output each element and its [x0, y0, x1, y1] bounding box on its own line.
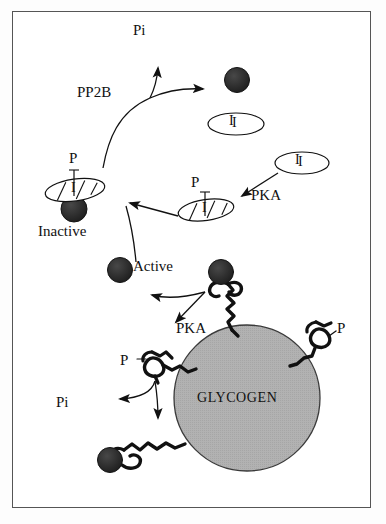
diagram-canvas: Pi PP2B P Inactive P PKA I I Active PKA … — [0, 0, 386, 524]
label-p-branch-left: P — [120, 352, 128, 369]
label-pp2b: PP2B — [77, 84, 111, 101]
arrow-pka-release-active — [152, 292, 205, 322]
diagram-vector-layer — [0, 0, 386, 524]
glycogen-branch-bottom — [98, 443, 186, 473]
inhibitor-right-text: I — [298, 154, 303, 170]
arrow-pp2b-dephosphorylation — [103, 68, 203, 168]
label-p-inactive: P — [69, 150, 77, 167]
label-p-inhibitor: P — [191, 174, 199, 191]
active-sphere — [108, 258, 133, 283]
inactive-complex — [44, 170, 106, 222]
free-sphere-top — [225, 68, 250, 93]
label-p-branch-right: P — [337, 320, 345, 337]
label-pka-bottom: PKA — [176, 320, 206, 337]
label-pi-bottom: Pi — [56, 394, 69, 411]
glycogen-branch-top — [209, 260, 242, 337]
label-inactive: Inactive — [38, 223, 86, 240]
arrow-dephosphorylation-branch — [120, 381, 158, 418]
label-active: Active — [133, 258, 173, 275]
inhibitor-upper-text: I — [232, 115, 237, 131]
label-pka-top: PKA — [251, 187, 281, 204]
phospho-inhibitor-text: I — [202, 200, 207, 216]
arrow-inhibitor-binding — [126, 203, 178, 262]
label-glycogen: GLYCOGEN — [197, 390, 277, 406]
inactive-inhibitor-text: I — [71, 180, 76, 196]
label-pi-top: Pi — [133, 22, 146, 39]
